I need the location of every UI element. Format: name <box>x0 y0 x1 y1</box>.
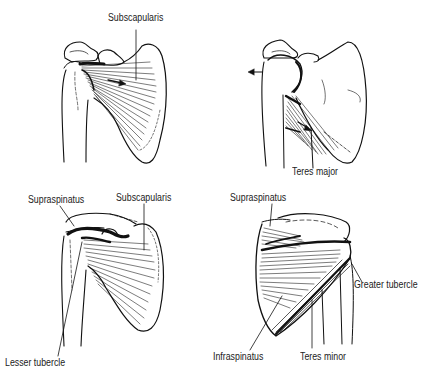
label-teres-major: Teres major <box>292 166 338 178</box>
label-supraspinatus-posterior: Supraspinatus <box>230 192 286 204</box>
label-subscapularis-top: Subscapularis <box>108 12 163 24</box>
label-supraspinatus-anterior: Supraspinatus <box>28 194 84 206</box>
label-infraspinatus: Infraspinatus <box>213 351 263 363</box>
label-greater-tubercle: Greater tubercle <box>354 279 418 291</box>
label-teres-minor: Teres minor <box>300 351 346 363</box>
anatomy-illustration <box>0 0 446 384</box>
shoulder-muscle-diagram: Subscapularis Teres major Supraspinatus … <box>0 0 446 384</box>
panel-2-drawing <box>248 40 366 168</box>
panel-3-drawing <box>58 204 163 356</box>
panel-1-drawing <box>62 30 166 163</box>
panel-4-drawing <box>250 204 362 350</box>
label-subscapularis-bottom: Subscapularis <box>116 192 171 204</box>
label-lesser-tubercle: Lesser tubercle <box>5 357 65 369</box>
